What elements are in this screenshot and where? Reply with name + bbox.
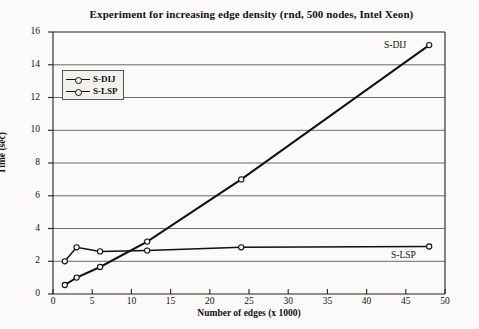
legend-item-s-lsp: S-LSP bbox=[66, 85, 118, 97]
legend-label-s-dij: S-DIJ bbox=[90, 74, 116, 84]
y-tick-marks bbox=[48, 32, 53, 294]
annotation-s-dij: S-DIJ bbox=[384, 40, 406, 50]
plot-canvas bbox=[0, 0, 479, 329]
legend-label-s-lsp: S-LSP bbox=[90, 86, 118, 96]
x-tick-marks bbox=[53, 289, 445, 294]
annotation-s-lsp: S-LSP bbox=[391, 250, 416, 260]
legend-item-s-dij: S-DIJ bbox=[66, 73, 118, 85]
line-marker-icon bbox=[66, 85, 90, 97]
chart-figure: Experiment for increasing edge density (… bbox=[0, 0, 479, 329]
chart-legend: S-DIJ S-LSP bbox=[62, 70, 124, 100]
line-marker-icon bbox=[66, 73, 90, 85]
